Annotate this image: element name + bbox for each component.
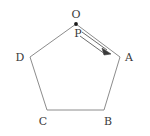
vector-p-to-a xyxy=(80,32,111,55)
vertex-label-D: D xyxy=(16,51,25,64)
vector-shaft-lower-line xyxy=(80,36,105,54)
vertex-label-O: O xyxy=(71,8,80,21)
vertex-label-C: C xyxy=(39,115,47,128)
vertex-label-B: B xyxy=(104,115,112,128)
geometry-figure: O A B C D P xyxy=(0,0,150,136)
pentagon-diagram-svg: O A B C D P xyxy=(0,0,150,136)
vertex-marker-O xyxy=(74,22,78,26)
vertex-label-A: A xyxy=(124,51,134,64)
vector-shaft-upper-line xyxy=(82,32,107,50)
point-label-P: P xyxy=(74,27,82,40)
